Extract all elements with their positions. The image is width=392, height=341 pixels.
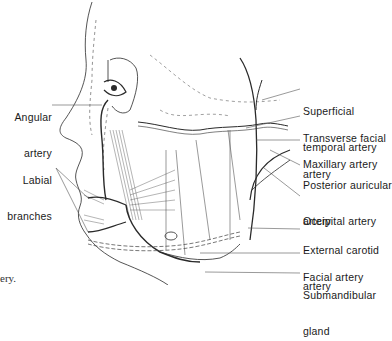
label-submandibular-gland: Submandibular gland (303, 265, 376, 341)
external-carotid-vessel (240, 58, 257, 240)
face-profile-outline (60, 2, 168, 285)
label-line: Labial (4, 174, 52, 186)
caption-fragment: ery. (0, 272, 16, 284)
label-line: Submandibular (303, 289, 376, 301)
transverse-facial-vessel (138, 122, 288, 130)
label-labial-branches: Labial branches (4, 150, 52, 234)
facial-artery-vessel (126, 205, 200, 262)
label-line: branches (4, 210, 52, 222)
leader-lines (52, 89, 300, 273)
label-line: gland (303, 325, 376, 337)
facial-muscle-fibers (84, 130, 175, 224)
label-line: Posterior auricular (303, 179, 392, 191)
eye-region (104, 58, 138, 113)
label-line: Angular (8, 111, 52, 123)
